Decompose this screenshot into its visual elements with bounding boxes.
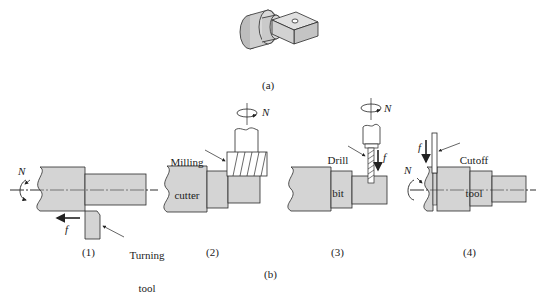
panel-3-tool-label: Drill bit xyxy=(323,133,353,210)
panel-4-tool-label-line2: tool xyxy=(456,188,492,199)
panel-3-tool-label-line2: bit xyxy=(323,188,353,199)
operations-caption: (b) xyxy=(264,269,277,280)
panel-2-rotation-symbol: N xyxy=(262,107,269,118)
panel-1-tool-label: Turning tool xyxy=(122,228,172,296)
panel-4-tool-label-line1: Cutoff xyxy=(456,155,492,166)
panel-1-caption: (1) xyxy=(82,247,95,258)
panel-3-caption: (3) xyxy=(331,247,344,258)
panel-1-tool-label-line2: tool xyxy=(122,283,172,294)
panel-3-feed-symbol: f xyxy=(383,152,386,163)
panel-2-caption: (2) xyxy=(206,247,219,258)
panel-4-feed-symbol: f xyxy=(418,142,421,153)
part-caption: (a) xyxy=(262,80,274,91)
panel-3-rotation-symbol: N xyxy=(384,103,391,114)
panel-2-tool-label-line1: Milling xyxy=(168,157,206,168)
panel-1-feed-symbol: f xyxy=(65,224,68,235)
panel-1-rotation-symbol: N xyxy=(18,166,25,177)
panel-3-tool-label-line1: Drill xyxy=(323,155,353,166)
panel-4-rotation-symbol: N xyxy=(404,165,411,176)
panel-1-tool-label-line1: Turning xyxy=(122,250,172,261)
panel-4-tool-label: Cutoff tool xyxy=(456,133,492,210)
panel-2-tool-label-line2: cutter xyxy=(168,190,206,201)
finished-part-drawing xyxy=(240,10,318,49)
panel-2-tool-label: Milling cutter xyxy=(168,135,206,212)
panel-4-caption: (4) xyxy=(463,247,476,258)
